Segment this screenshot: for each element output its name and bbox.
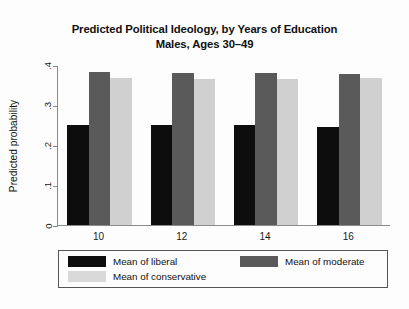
legend-label-moderate: Mean of moderate — [285, 256, 365, 267]
bar — [234, 125, 256, 225]
bars-layer — [58, 66, 390, 225]
chart-title: Predicted Political Ideology, by Years o… — [0, 22, 409, 51]
x-axis-tick-label: 16 — [343, 231, 354, 242]
legend-item-moderate: Mean of moderate — [240, 256, 365, 267]
x-axis-tick-label: 14 — [260, 231, 271, 242]
chart-legend: Mean of liberal Mean of moderate Mean of… — [58, 250, 388, 288]
legend-swatch-moderate — [240, 256, 278, 267]
legend-item-liberal: Mean of liberal — [68, 256, 177, 267]
bar-group — [67, 66, 132, 225]
y-axis-tick-label: .1 — [41, 182, 52, 190]
chart-title-line-1: Predicted Political Ideology, by Years o… — [0, 22, 409, 37]
legend-swatch-liberal — [68, 256, 106, 267]
legend-item-conservative: Mean of conservative — [68, 271, 206, 282]
y-axis-tick-label: .4 — [41, 62, 52, 70]
legend-label-conservative: Mean of conservative — [113, 271, 206, 282]
y-axis-tick-label: 0 — [43, 223, 54, 228]
bar — [67, 125, 89, 225]
bar — [89, 72, 111, 225]
bar — [172, 73, 194, 225]
legend-swatch-conservative — [68, 271, 106, 282]
x-axis-tick-label: 12 — [176, 231, 187, 242]
bar-group — [151, 66, 216, 225]
x-axis-tick-label: 10 — [93, 231, 104, 242]
chart-title-line-2: Males, Ages 30–49 — [0, 37, 409, 52]
bar — [110, 78, 132, 225]
bar — [277, 79, 299, 225]
chart-figure: Predicted Political Ideology, by Years o… — [0, 0, 409, 309]
bar — [317, 127, 339, 225]
bar-group — [317, 66, 382, 225]
bar — [360, 78, 382, 225]
bar — [255, 73, 277, 225]
plot-area: 0.1.2.3.4 — [57, 66, 390, 226]
y-axis-tick-label: .2 — [41, 142, 52, 150]
y-axis-tick-label: .3 — [41, 102, 52, 110]
bar — [151, 125, 173, 225]
bar — [194, 79, 216, 225]
bar — [339, 74, 361, 225]
bar-group — [234, 66, 299, 225]
legend-label-liberal: Mean of liberal — [113, 256, 177, 267]
